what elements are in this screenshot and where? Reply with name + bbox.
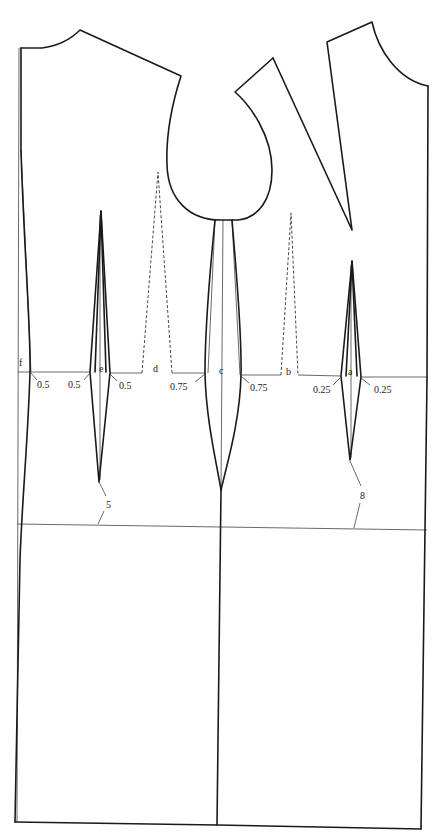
- center-guide-c: [221, 220, 223, 490]
- dart-e-inner: [95, 211, 106, 372]
- measure-left-dart-drop: 5: [106, 499, 111, 510]
- dart-b-lines: [281, 213, 298, 375]
- leader-8-top: [350, 461, 361, 486]
- back-center-edge: [421, 86, 428, 829]
- leader-5-bottom: [98, 511, 104, 524]
- dart-b: [281, 213, 298, 375]
- center-seam: [217, 490, 221, 825]
- guide-lines: [17, 48, 427, 822]
- leader-a-right: [361, 378, 370, 385]
- measure-a-left: 0.25: [313, 384, 331, 395]
- leader-e-left: [84, 373, 90, 380]
- leader-a-left: [333, 377, 341, 385]
- dart-d-lines: [142, 172, 172, 373]
- measure-e-left: 0.5: [68, 379, 81, 390]
- back-shoulder-dart: [273, 22, 428, 230]
- label-c: c: [219, 365, 224, 376]
- measure-c-right: 0.75: [250, 382, 268, 393]
- dart-d: [142, 172, 172, 373]
- label-f: f: [19, 357, 23, 368]
- label-e: e: [99, 363, 104, 374]
- measure-right-dart-drop: 8: [360, 490, 365, 501]
- front-neck-shoulder-armhole: [21, 30, 273, 220]
- measure-e-right: 0.5: [119, 380, 132, 391]
- leader-8-bottom: [354, 503, 360, 528]
- waist-line-right-b: [298, 375, 341, 376]
- dart-a-inner: [346, 261, 357, 376]
- leader-c: [241, 376, 249, 383]
- hem-line: [15, 822, 421, 829]
- leader-e-right: [110, 374, 117, 381]
- measure-f-right: 0.5: [37, 379, 50, 390]
- pattern-diagram: f e d c b a 0.5 0.5 0.5 0.75 0.75 0.25 0…: [0, 0, 437, 834]
- leader-5-top: [99, 482, 106, 496]
- label-a: a: [348, 366, 353, 377]
- back-piece-top: [273, 22, 428, 230]
- leader-d: [195, 374, 205, 382]
- label-b: b: [286, 366, 291, 377]
- leader-lines: [31, 373, 370, 528]
- measure-a-right: 0.25: [374, 384, 392, 395]
- front-side-seam: [15, 48, 30, 822]
- dart-c-right: [221, 220, 241, 490]
- hip-line: [17, 524, 427, 530]
- measure-d-right: 0.75: [170, 381, 188, 392]
- label-d: d: [153, 363, 158, 374]
